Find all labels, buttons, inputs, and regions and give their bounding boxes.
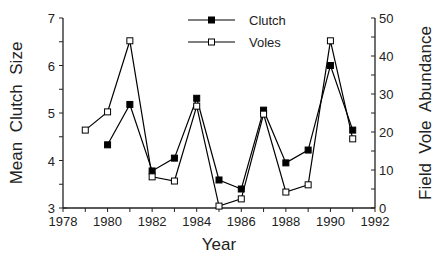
x-tick-label: 1980 (93, 214, 122, 229)
x-tick-label: 1986 (227, 214, 256, 229)
chart: 19781980198219841986198819901992 34567 0… (0, 0, 441, 260)
y2-axis-title: Field Vole Abundance (416, 26, 435, 200)
clutch-data-point (127, 101, 133, 107)
y2-tick-label: 50 (379, 11, 393, 26)
voles-data-point (261, 111, 267, 117)
x-tick-label: 1982 (138, 214, 167, 229)
legend-marker-clutch (209, 17, 215, 23)
x-axis-ticks: 19781980198219841986198819901992 (49, 208, 390, 229)
y-axis-ticks: 34567 (48, 11, 67, 216)
legend-label-clutch: Clutch (249, 13, 286, 28)
legend-marker-voles (209, 39, 215, 45)
y-tick-label: 6 (48, 59, 55, 74)
y-tick-label: 5 (48, 106, 55, 121)
y2-tick-label: 30 (379, 87, 393, 102)
y2-tick-label: 0 (379, 201, 386, 216)
clutch-data-point (149, 168, 155, 174)
voles-data-point (283, 189, 289, 195)
voles-data-point (171, 178, 177, 184)
clutch-data-point (171, 155, 177, 161)
y2-tick-label: 10 (379, 163, 393, 178)
voles-data-point (327, 38, 333, 44)
x-tick-label: 1978 (49, 214, 78, 229)
voles-data-point (127, 38, 133, 44)
x-axis-title: Year (202, 235, 237, 254)
y2-tick-label: 40 (379, 49, 393, 64)
legend: ClutchVoles (188, 13, 286, 50)
y2-tick-label: 20 (379, 125, 393, 140)
voles-data-point (194, 103, 200, 109)
clutch-data-point (216, 177, 222, 183)
voles-data-point (305, 182, 311, 188)
series-layer (82, 38, 355, 209)
clutch-data-point (327, 63, 333, 69)
voles-data-point (216, 203, 222, 209)
legend-label-voles: Voles (249, 35, 281, 50)
voles-data-point (238, 196, 244, 202)
x-tick-label: 1988 (271, 214, 300, 229)
x-tick-label: 1984 (182, 214, 211, 229)
clutch-data-point (305, 147, 311, 153)
clutch-data-point (283, 160, 289, 166)
y-axis-title: Mean Clutch Size (7, 42, 26, 185)
voles-data-point (105, 109, 111, 115)
y-tick-label: 7 (48, 11, 55, 26)
voles-data-point (350, 136, 356, 142)
voles-data-point (82, 127, 88, 133)
y-tick-label: 4 (48, 154, 55, 169)
x-tick-label: 1992 (361, 214, 390, 229)
y-tick-label: 3 (48, 201, 55, 216)
clutch-data-point (194, 95, 200, 101)
voles-data-point (149, 174, 155, 180)
x-tick-label: 1990 (316, 214, 345, 229)
clutch-data-point (105, 142, 111, 148)
